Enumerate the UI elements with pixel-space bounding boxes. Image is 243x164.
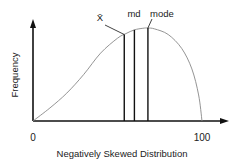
skew-diagram: X̄mdmode 0 100 Negatively Skewed Distrib…	[0, 0, 243, 164]
x-axis-arrow	[220, 118, 229, 124]
mode-label: mode	[150, 8, 174, 19]
mean-leader	[105, 25, 124, 35]
y-axis-label: Frequency	[9, 52, 20, 97]
mode-leader	[148, 19, 152, 28]
distribution-curve	[33, 28, 202, 121]
x-tick-0: 0	[30, 132, 36, 143]
median-label: md	[127, 8, 140, 19]
y-axis-arrow	[30, 19, 36, 28]
x-tick-100: 100	[194, 132, 211, 143]
mean-label: X̄	[97, 12, 104, 23]
x-axis-label: Negatively Skewed Distribution	[57, 148, 188, 159]
